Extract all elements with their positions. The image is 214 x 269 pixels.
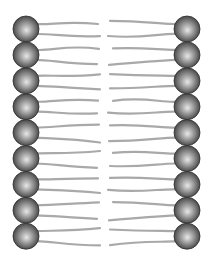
- right-leaflet-heads: [174, 16, 200, 249]
- hydrophobic-tail: [113, 202, 177, 205]
- hydrophobic-tail: [36, 228, 100, 231]
- hydrophobic-tail: [113, 99, 177, 102]
- hydrophilic-head: [174, 16, 200, 42]
- hydrophobic-tail: [36, 100, 98, 102]
- hydrophobic-tail: [36, 60, 97, 64]
- hydrophobic-tail: [36, 86, 100, 90]
- hydrophobic-tail: [109, 60, 177, 65]
- hydrophobic-tail: [36, 74, 100, 76]
- hydrophobic-tail: [36, 151, 100, 154]
- hydrophobic-tail: [36, 138, 100, 143]
- hydrophobic-tail: [36, 215, 97, 219]
- hydrophobic-tail: [110, 21, 177, 24]
- hydrophobic-tail: [36, 23, 98, 24]
- hydrophilic-head: [174, 223, 200, 249]
- hydrophobic-tail: [110, 241, 177, 245]
- hydrophilic-head: [174, 94, 200, 120]
- left-leaflet-tails: [36, 23, 100, 246]
- hydrophilic-head: [13, 197, 39, 223]
- lipid-bilayer-diagram: [0, 0, 214, 269]
- hydrophobic-tail: [36, 202, 99, 205]
- hydrophobic-tail: [110, 125, 177, 128]
- hydrophobic-tail: [36, 112, 97, 114]
- hydrophobic-tail: [108, 34, 177, 37]
- hydrophobic-tail: [36, 34, 100, 36]
- hydrophilic-head: [174, 146, 200, 172]
- hydrophilic-head: [13, 223, 39, 249]
- hydrophobic-tail: [36, 125, 99, 128]
- hydrophobic-tail: [110, 74, 177, 76]
- hydrophobic-tail: [110, 178, 177, 180]
- hydrophilic-head: [174, 68, 200, 94]
- hydrophobic-tail: [36, 241, 100, 245]
- hydrophobic-tail: [110, 163, 177, 166]
- hydrophobic-tail: [36, 164, 97, 168]
- hydrophilic-head: [174, 120, 200, 146]
- hydrophilic-head: [13, 94, 39, 120]
- hydrophobic-tail: [110, 86, 177, 89]
- hydrophilic-head: [13, 146, 39, 172]
- hydrophobic-tail: [36, 178, 98, 179]
- hydrophobic-tail: [109, 138, 177, 142]
- hydrophobic-tail: [110, 230, 177, 232]
- hydrophobic-tail: [113, 48, 177, 50]
- hydrophobic-tail: [109, 215, 177, 220]
- hydrophobic-tail: [108, 112, 177, 114]
- hydrophilic-head: [174, 171, 200, 197]
- hydrophilic-head: [174, 197, 200, 223]
- hydrophilic-head: [13, 120, 39, 146]
- hydrophilic-head: [13, 171, 39, 197]
- left-leaflet-heads: [13, 16, 39, 249]
- hydrophobic-tail: [36, 47, 99, 50]
- hydrophilic-head: [174, 42, 200, 68]
- hydrophobic-tail: [113, 152, 177, 154]
- hydrophilic-head: [13, 42, 39, 68]
- hydrophilic-head: [13, 16, 39, 42]
- right-leaflet-tails: [108, 21, 177, 245]
- hydrophobic-tail: [108, 189, 177, 191]
- hydrophilic-head: [13, 68, 39, 94]
- hydrophobic-tail: [36, 189, 100, 193]
